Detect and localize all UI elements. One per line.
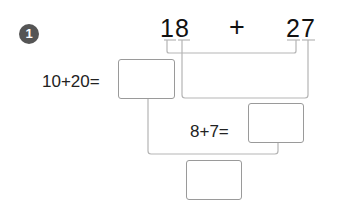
final-answer-box[interactable] [186, 160, 242, 200]
tens-expression: 10+20= [42, 72, 100, 92]
tens-answer-box[interactable] [118, 59, 175, 99]
plus-operator: + [229, 12, 246, 43]
ones-expression: 8+7= [190, 122, 229, 142]
problem-number-badge: 1 [19, 24, 39, 44]
operand-b: 27 [286, 14, 316, 43]
ones-answer-box[interactable] [248, 103, 304, 143]
operand-a: 18 [160, 14, 190, 43]
